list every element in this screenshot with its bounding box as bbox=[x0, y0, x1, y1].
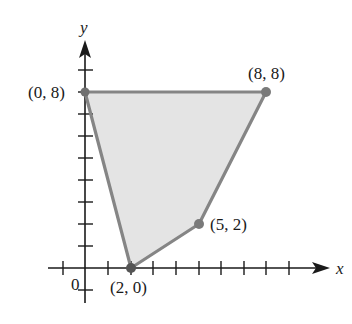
y-axis-label: y bbox=[78, 18, 88, 37]
origin-label: 0 bbox=[71, 275, 80, 294]
vertex-point-8-8 bbox=[261, 87, 271, 97]
vertex-point-5-2 bbox=[194, 219, 204, 229]
x-axis-label: x bbox=[335, 259, 344, 278]
vertex-label-0-8: (0, 8) bbox=[28, 83, 65, 102]
feasible-region-diagram: (0, 8) (8, 8) (5, 2) (2, 0) 0 x y bbox=[0, 0, 352, 324]
vertex-point-2-0 bbox=[126, 263, 136, 273]
vertex-label-2-0: (2, 0) bbox=[110, 278, 147, 297]
vertex-label-8-8: (8, 8) bbox=[248, 64, 285, 83]
vertex-label-5-2: (5, 2) bbox=[210, 215, 247, 234]
shaded-region bbox=[85, 92, 266, 268]
vertex-point-0-8 bbox=[81, 88, 90, 97]
